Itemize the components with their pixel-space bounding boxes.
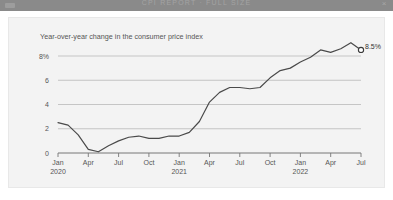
y-axis-tick-label: 4 bbox=[23, 101, 49, 108]
chart-card: Year-over-year change in the consumer pr… bbox=[8, 17, 385, 188]
window-title-bar: CPI REPORT · FULL SIZE × bbox=[0, 0, 393, 11]
endpoint-value-label: 8.5% bbox=[365, 43, 381, 50]
app-root: CPI REPORT · FULL SIZE × Year-over-year … bbox=[0, 0, 393, 200]
x-axis-tick-label: Jan2021 bbox=[171, 159, 187, 176]
x-axis-tick-label: Oct bbox=[143, 159, 154, 167]
x-axis-tick-label: Jul bbox=[114, 159, 123, 167]
y-axis-tick-label: 6 bbox=[23, 77, 49, 84]
x-axis-tick-label: Apr bbox=[325, 159, 336, 167]
x-axis-tick-label: Jul bbox=[357, 159, 366, 167]
line-chart-plot: 02468% Jan2020AprJulOctJan2021AprJulOctJ… bbox=[9, 18, 386, 189]
x-axis-tick-label: Jul bbox=[235, 159, 244, 167]
y-axis-tick-label: 2 bbox=[23, 125, 49, 132]
window-title: CPI REPORT · FULL SIZE bbox=[15, 0, 378, 6]
x-axis-tick-label: Jan2020 bbox=[50, 159, 66, 176]
close-icon[interactable]: × bbox=[378, 0, 390, 9]
x-axis-tick-label: Apr bbox=[204, 159, 215, 167]
x-axis-tick-label: Jan2022 bbox=[293, 159, 309, 176]
gridlines bbox=[58, 56, 361, 153]
window-menu-icon[interactable] bbox=[5, 3, 15, 8]
endpoint-marker bbox=[358, 47, 363, 52]
series-line bbox=[58, 43, 361, 152]
y-axis-tick-label: 0 bbox=[23, 150, 49, 157]
x-axis-tick-label: Oct bbox=[265, 159, 276, 167]
x-axis-ticks bbox=[58, 153, 361, 157]
x-axis-tick-label: Apr bbox=[83, 159, 94, 167]
y-axis-tick-label: 8% bbox=[23, 53, 49, 60]
